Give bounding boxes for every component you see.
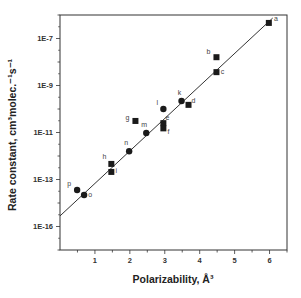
x-tick-label: 2 — [128, 256, 132, 265]
scatter-chart: 123456 1E-71E-91E-111E-131E-16 abcdefghi… — [0, 0, 301, 298]
y-tick-label: 1E-9 — [37, 81, 53, 90]
x-tick-label: 1 — [93, 256, 97, 265]
x-axis-ticks: 123456 — [77, 250, 287, 265]
x-tick-label: 4 — [198, 256, 203, 265]
x-tick-label: 3 — [163, 256, 167, 265]
data-point-square — [213, 54, 219, 60]
x-tick-label: 5 — [233, 256, 237, 265]
data-point-square — [108, 161, 114, 167]
data-point-label: e — [165, 114, 169, 121]
plot-border — [60, 15, 287, 250]
y-tick-label: 1E-16 — [33, 222, 53, 231]
data-point-label: m — [141, 121, 147, 128]
y-axis-ticks: 1E-71E-91E-111E-131E-16 — [33, 15, 60, 250]
x-axis-title: Polarizability, Å³ — [133, 273, 214, 285]
data-point-label: d — [192, 97, 196, 104]
data-point-circle — [74, 187, 80, 193]
y-tick-label: 1E-11 — [33, 128, 53, 137]
data-point-label: a — [274, 15, 278, 22]
data-point-square — [132, 118, 138, 124]
data-point-square — [160, 125, 166, 131]
x-tick-label: 6 — [267, 256, 271, 265]
data-point-label: p — [67, 180, 71, 188]
data-point-label: n — [124, 139, 128, 146]
data-point-label: l — [157, 99, 159, 106]
data-point-circle — [126, 148, 132, 154]
y-tick-label: 1E-7 — [37, 34, 53, 43]
data-point-circle — [143, 130, 149, 136]
data-point-square — [266, 20, 272, 26]
data-point-circle — [178, 98, 184, 104]
data-point-circle — [160, 106, 166, 112]
data-point-square — [213, 69, 219, 75]
plot-frame — [60, 15, 287, 250]
data-point-label: b — [207, 48, 211, 55]
data-point-square — [108, 169, 114, 175]
data-point-label: k — [178, 89, 182, 96]
data-point-label: g — [125, 114, 129, 122]
y-tick-label: 1E-13 — [33, 175, 53, 184]
y-axis-title: Rate constant, cm³molec.⁻¹s⁻¹ — [6, 58, 18, 211]
data-point-label: c — [221, 68, 225, 75]
data-point-label: f — [167, 128, 169, 135]
data-point-label: o — [88, 191, 92, 198]
data-point-label: h — [102, 153, 106, 160]
data-point-circle — [81, 192, 87, 198]
data-point-label: i — [116, 167, 118, 174]
